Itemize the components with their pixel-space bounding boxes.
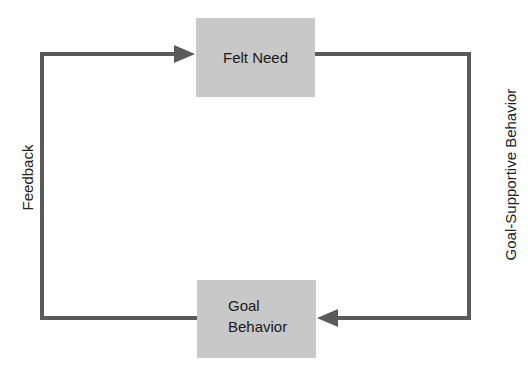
felt-need-box: Felt Need: [196, 18, 315, 97]
feedback-connector: [42, 54, 197, 318]
goal-supportive-behavior-label: Goal-Supportive Behavior: [502, 75, 519, 275]
felt-need-label: Felt Need: [223, 49, 288, 66]
goal-behavior-label-line1: Goal: [228, 297, 260, 314]
arrowhead-into-felt-need: [174, 45, 195, 63]
feedback-label: Feedback: [19, 138, 36, 218]
arrowhead-into-goal-behavior: [317, 309, 338, 327]
goal-behavior-box: Goal Behavior: [197, 280, 316, 358]
goal-supportive-connector: [315, 54, 469, 318]
goal-behavior-label-line2: Behavior: [228, 318, 287, 335]
